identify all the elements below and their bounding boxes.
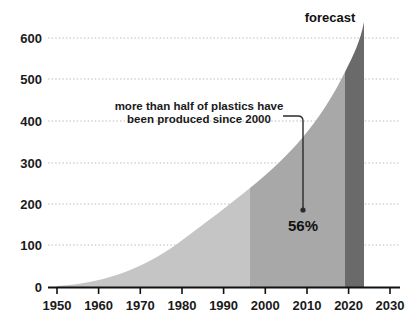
forecast-label: forecast [305,10,356,25]
x-tick-label-2010: 2010 [293,298,322,313]
annotation-line-1: more than half of plastics have [115,100,284,112]
y-tick-400: 400 [20,114,42,129]
plastics-production-chart: 600 500 400 300 200 100 0 1950 196 [0,0,418,329]
y-axis: 600 500 400 300 200 100 0 [20,31,42,295]
y-tick-200: 200 [20,197,42,212]
x-tick-label-2030: 2030 [376,298,405,313]
y-tick-0: 0 [35,280,42,295]
x-axis: 1950 1960 1970 1980 1990 2000 2010 2020 … [43,287,405,313]
chart-canvas: 600 500 400 300 200 100 0 1950 196 [0,0,418,329]
x-tick-label-1980: 1980 [168,298,197,313]
y-tick-300: 300 [20,156,42,171]
area-series-plastics-production [57,22,364,287]
share-since-2000-label: 56% [288,217,318,234]
y-tick-600: 600 [20,31,42,46]
y-tick-100: 100 [20,238,42,253]
x-tick-label-2000: 2000 [251,298,280,313]
x-tick-label-1960: 1960 [84,298,113,313]
x-tick-label-1950: 1950 [43,298,72,313]
annotation-leader-dot [300,207,305,212]
x-tick-label-2020: 2020 [334,298,363,313]
y-tick-500: 500 [20,72,42,87]
x-tick-label-1990: 1990 [209,298,238,313]
x-tick-label-1970: 1970 [126,298,155,313]
annotation-line-2: been produced since 2000 [127,113,271,125]
